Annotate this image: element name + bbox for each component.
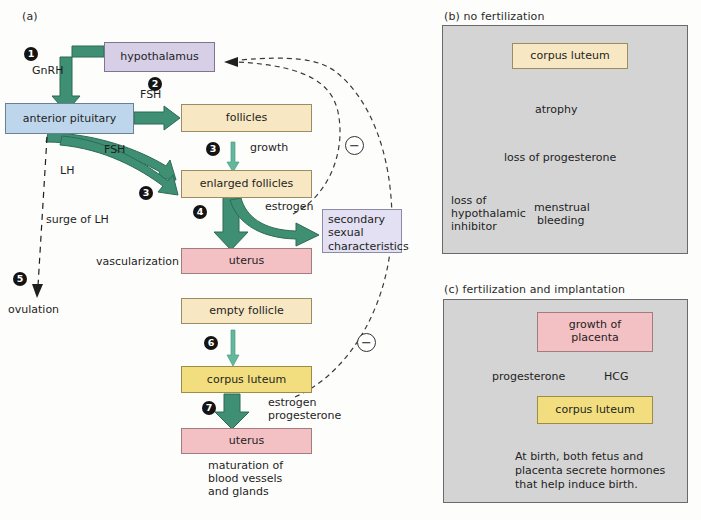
step-bullet-3-growth: 3	[206, 142, 220, 156]
panel-a-label: (a)	[22, 10, 38, 23]
label-c-note-line-1: At birth, both fetus and	[515, 450, 643, 464]
label-growth: growth	[250, 141, 288, 155]
label-c-hcg: HCG	[604, 370, 628, 384]
node-uterus-2[interactable]: uterus	[181, 428, 312, 454]
step-bullet-3-lh: 3	[139, 186, 153, 200]
panel-c-label: (c) fertilization and implantation	[444, 283, 625, 296]
node-uterus-1[interactable]: uterus	[181, 248, 312, 274]
node-empty-follicle[interactable]: empty follicle	[181, 298, 312, 324]
arrow-growth	[227, 142, 239, 172]
secondary-sexual-line-2: sexual	[328, 226, 396, 239]
label-surge-of-lh: surge of LH	[46, 213, 109, 227]
c-placenta-line-2: placenta	[542, 331, 648, 344]
node-anterior-pituitary[interactable]: anterior pituitary	[5, 103, 134, 134]
label-b-loss-inhibitor-line-1: loss of	[451, 194, 486, 208]
figure-root: (a) hypothalamus anterior pituitary foll…	[0, 0, 701, 520]
label-b-loss-of-progesterone: loss of progesterone	[504, 151, 616, 165]
step-bullet-1: 1	[24, 47, 38, 61]
secondary-sexual-line-3: characteristics	[328, 240, 396, 253]
label-estrogen-upper: estrogen	[265, 200, 314, 214]
label-b-menstrual-line-2: bleeding	[537, 214, 585, 228]
label-b-loss-inhibitor-line-3: inhibitor	[451, 220, 497, 234]
label-c-note-line-3: that help induce birth.	[515, 478, 638, 492]
label-progesterone-lower: progesterone	[268, 409, 341, 423]
label-estrogen-lower: estrogen	[268, 396, 317, 410]
arrow-empty-follicle-to-corpus	[227, 330, 239, 366]
arrow-enlarged-to-uterus	[214, 197, 248, 250]
label-c-note-line-2: placenta secrete hormones	[515, 464, 665, 478]
label-maturation-line-1: maturation of	[208, 459, 283, 473]
node-enlarged-follicles[interactable]: enlarged follicles	[181, 170, 312, 198]
node-hypothalamus[interactable]: hypothalamus	[104, 42, 215, 72]
step-bullet-7: 7	[202, 401, 216, 415]
label-b-menstrual-line-1: menstrual	[534, 201, 590, 215]
node-follicles[interactable]: follicles	[181, 104, 312, 132]
label-c-progesterone: progesterone	[492, 370, 565, 384]
label-fsh-mid: FSH	[104, 143, 125, 157]
node-secondary-sexual-characteristics[interactable]: secondary sexual characteristics	[322, 209, 402, 253]
step-bullet-5: 5	[13, 272, 27, 286]
negative-feedback-icon-upper: −	[345, 136, 364, 155]
arrow-fsh-follicles	[134, 106, 180, 130]
node-c-corpus-luteum[interactable]: corpus luteum	[537, 396, 653, 424]
label-gnrh: GnRH	[32, 64, 63, 78]
arrow-corpus-to-uterus	[215, 394, 249, 429]
arrow-surge-of-lh-ovulation	[32, 137, 47, 298]
label-vascularization: vascularization	[96, 255, 179, 269]
step-bullet-6: 6	[204, 336, 218, 350]
label-b-loss-inhibitor-line-2: hypothalamic	[451, 207, 526, 221]
label-b-atrophy: atrophy	[535, 103, 578, 117]
step-bullet-2: 2	[148, 77, 162, 91]
label-lh: LH	[60, 164, 74, 178]
label-maturation-line-2: blood vessels	[208, 472, 282, 486]
step-bullet-4: 4	[193, 205, 207, 219]
node-c-growth-of-placenta[interactable]: growth of placenta	[537, 312, 653, 352]
label-maturation-line-3: and glands	[208, 485, 269, 499]
secondary-sexual-line-1: secondary	[328, 213, 396, 226]
c-placenta-line-1: growth of	[542, 318, 648, 331]
label-ovulation: ovulation	[8, 303, 59, 317]
panel-b-label: (b) no fertilization	[444, 10, 545, 23]
node-b-corpus-luteum[interactable]: corpus luteum	[512, 43, 628, 69]
negative-feedback-icon-lower: −	[357, 333, 376, 352]
node-corpus-luteum[interactable]: corpus luteum	[181, 366, 312, 393]
